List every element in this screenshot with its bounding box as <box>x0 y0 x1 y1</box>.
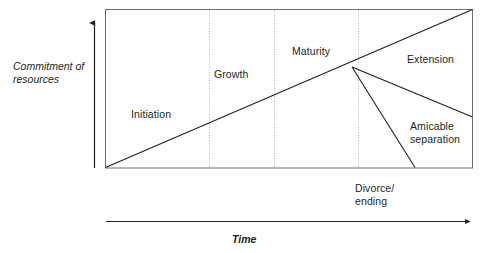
stage-label-extension: Extension <box>407 53 454 66</box>
stage-label-maturity: Maturity <box>292 45 330 58</box>
stage-label-amicable-separation: Amicable separation <box>410 120 480 145</box>
stage-label-divorce-ending: Divorce/ ending <box>355 182 415 207</box>
lifecycle-diagram: Commitment of resources Time Initiation … <box>0 0 485 253</box>
y-axis-label: Commitment of resources <box>13 60 99 86</box>
x-axis-label: Time <box>232 233 256 245</box>
stage-label-initiation: Initiation <box>131 108 171 121</box>
stage-label-growth: Growth <box>214 68 248 81</box>
